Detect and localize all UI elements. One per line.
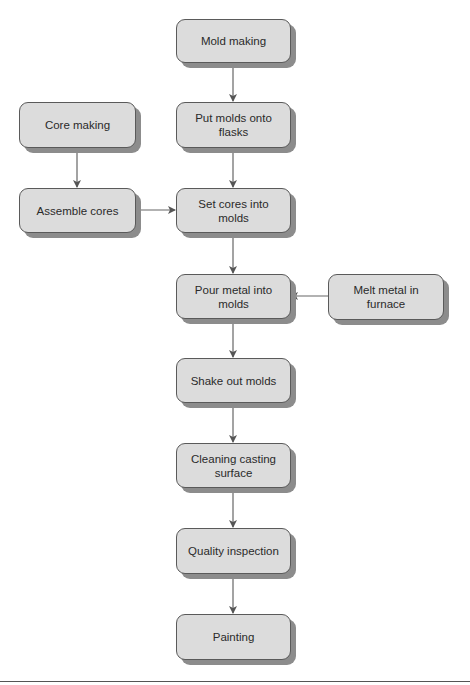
node-label: Painting (213, 630, 255, 644)
bottom-rule (0, 681, 470, 682)
node-quality-inspection: Quality inspection (176, 528, 291, 574)
node-label: Quality inspection (188, 544, 279, 558)
node-assemble-cores: Assemble cores (19, 188, 136, 233)
node-label: Shake out molds (191, 374, 277, 388)
node-label: Cleaning casting surface (185, 452, 282, 480)
node-put-molds-onto-flasks: Put molds onto flasks (176, 102, 291, 148)
node-label: Assemble cores (37, 204, 119, 218)
node-cleaning-casting-surface: Cleaning casting surface (176, 443, 291, 488)
node-label: Set cores into molds (185, 197, 282, 225)
node-label: Pour metal into molds (185, 283, 282, 311)
node-mold-making: Mold making (176, 19, 291, 63)
node-pour-metal-into-molds: Pour metal into molds (176, 274, 291, 319)
node-label: Mold making (201, 34, 266, 48)
node-label: Core making (45, 118, 110, 132)
node-core-making: Core making (19, 102, 136, 148)
node-label: Melt metal in furnace (337, 283, 435, 311)
node-set-cores-into-molds: Set cores into molds (176, 188, 291, 233)
node-melt-metal-in-furnace: Melt metal in furnace (328, 274, 444, 320)
node-painting: Painting (176, 614, 291, 660)
node-shake-out-molds: Shake out molds (176, 358, 291, 403)
node-label: Put molds onto flasks (185, 111, 282, 139)
